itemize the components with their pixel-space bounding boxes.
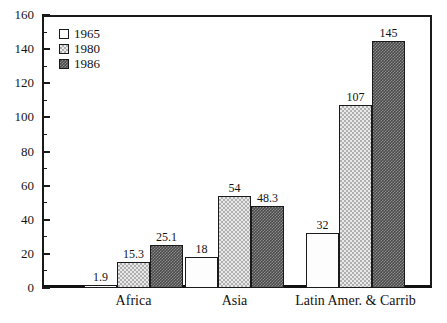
bar-chart: 020406080100120140160 1.915.325.1Africa1…	[0, 0, 447, 323]
bar-latin-amer-carrib-1965[interactable]	[306, 233, 339, 288]
legend-swatch-1980	[59, 44, 69, 54]
bar-latin-amer-carrib-1986[interactable]	[372, 41, 405, 288]
legend-item[interactable]: 1965	[59, 27, 100, 40]
legend-swatch-1965	[59, 29, 69, 39]
legend-label: 1980	[74, 42, 100, 55]
bar-value-label: 25.1	[144, 231, 189, 243]
bar-africa-1965[interactable]	[84, 285, 117, 288]
legend-item[interactable]: 1980	[59, 42, 100, 55]
legend: 1965 1980 1986	[59, 27, 100, 72]
x-axis-category-label: Latin Amer. & Carrib	[276, 294, 436, 308]
legend-swatch-1986	[59, 59, 69, 69]
legend-label: 1986	[74, 57, 100, 70]
bar-asia-1980[interactable]	[218, 196, 251, 288]
bar-asia-1986[interactable]	[251, 206, 284, 288]
bar-latin-amer-carrib-1980[interactable]	[339, 105, 372, 288]
legend-label: 1965	[74, 27, 100, 40]
bar-africa-1980[interactable]	[117, 262, 150, 288]
legend-item[interactable]: 1986	[59, 57, 100, 70]
bar-asia-1965[interactable]	[185, 257, 218, 288]
bar-value-label: 48.3	[245, 192, 290, 204]
bar-value-label: 145	[366, 27, 411, 39]
